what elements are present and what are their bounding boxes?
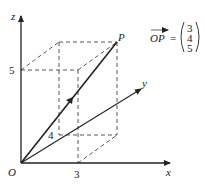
origin-label: O [8,166,16,178]
point-p-label: P [117,31,125,43]
equation-lhs: OP [150,32,165,44]
right-paren-icon [196,22,199,52]
y-axis [21,89,141,163]
y-axis-label: y [141,77,147,89]
vector-diagram: z x y O P 5 4 3 OP = 3 4 5 [0,0,204,194]
x-axis-label: x [165,166,171,178]
equation-equals: = [170,32,176,44]
vector-equation: OP = 3 4 5 [150,22,199,54]
left-paren-icon [181,22,184,52]
z-tick-label: 5 [9,64,15,76]
vector-component-z: 5 [187,42,193,54]
x-tick-label: 3 [74,168,80,180]
y-tick-label: 4 [48,129,54,141]
z-axis-label: z [10,10,16,22]
